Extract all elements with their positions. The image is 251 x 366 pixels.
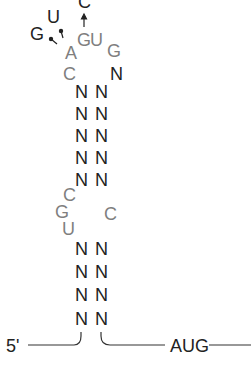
upper-stem-right-3: N <box>95 127 108 145</box>
mutation-g: G <box>30 25 44 43</box>
loop-c: C <box>63 65 76 83</box>
upper-stem-left-1: N <box>75 83 88 101</box>
lower-stem-right-3: N <box>95 286 108 304</box>
loop-a: A <box>65 44 77 62</box>
mutation-c: C <box>78 0 91 11</box>
loop-u: U <box>90 31 103 49</box>
loop-n: N <box>110 65 123 83</box>
lower-stem-right-1: N <box>95 240 108 258</box>
lower-stem-left-1: N <box>75 240 88 258</box>
upper-stem-left-5: N <box>75 171 88 189</box>
lower-stem-left-4: N <box>75 310 88 328</box>
mutation-u: U <box>47 8 60 26</box>
upper-stem-left-4: N <box>75 149 88 167</box>
loop-g1: G <box>77 31 91 49</box>
bulge-u: U <box>62 220 75 238</box>
upper-stem-right-5: N <box>95 171 108 189</box>
loop-g2: G <box>107 42 121 60</box>
upper-stem-right-4: N <box>95 149 108 167</box>
backbone-lines <box>0 0 251 366</box>
lower-stem-right-2: N <box>95 263 108 281</box>
lower-stem-left-2: N <box>75 263 88 281</box>
start-codon-label: AUG <box>170 337 209 355</box>
bulge-c-right: C <box>104 205 117 223</box>
lower-stem-right-4: N <box>95 310 108 328</box>
upper-stem-right-1: N <box>95 83 108 101</box>
upper-stem-left-3: N <box>75 127 88 145</box>
five-prime-label: 5' <box>6 337 19 355</box>
upper-stem-left-2: N <box>75 105 88 123</box>
lower-stem-left-3: N <box>75 286 88 304</box>
upper-stem-right-2: N <box>95 105 108 123</box>
